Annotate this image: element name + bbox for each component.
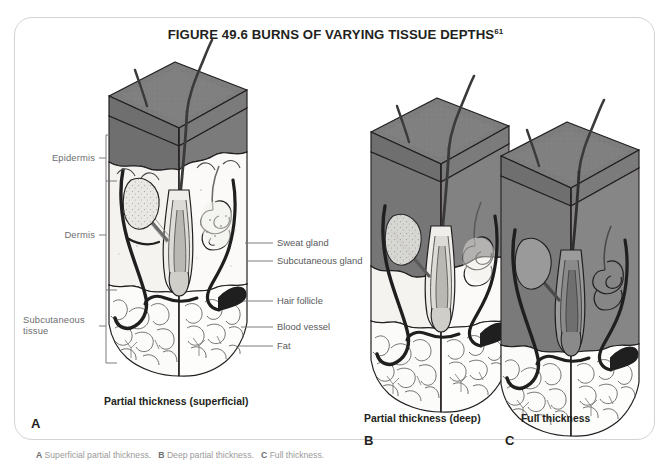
footnote-text-b: Deep partial thickness. bbox=[167, 450, 254, 460]
figure-footnote: A Superficial partial thickness. B Deep … bbox=[36, 450, 636, 461]
panel-letter-b: B bbox=[364, 433, 373, 448]
panel-caption-a: Partial thickness (superficial) bbox=[104, 396, 248, 407]
panel-caption-b: Partial thickness (deep) bbox=[364, 413, 481, 424]
figure-screenshot: FIGURE 49.6 BURNS OF VARYING TISSUE DEPT… bbox=[0, 0, 669, 462]
layer-label-subcutaneous-line1: Subcutaneous bbox=[23, 314, 85, 325]
figure-card: FIGURE 49.6 BURNS OF VARYING TISSUE DEPT… bbox=[14, 17, 655, 440]
skin-blocks-svg bbox=[15, 18, 656, 441]
structure-label-fat: Fat bbox=[277, 340, 291, 351]
footnote-text-c: Full thickness. bbox=[270, 450, 324, 460]
structure-label-subcutaneous-gland: Subcutaneous gland bbox=[277, 255, 363, 266]
structure-label-hair-follicle: Hair follicle bbox=[277, 295, 323, 306]
layer-label-subcutaneous-tissue: Subcutaneous tissue bbox=[23, 314, 97, 336]
panel-letter-c: C bbox=[505, 433, 514, 448]
panel-caption-c: Full thickness bbox=[521, 413, 590, 424]
panel-c-illustration bbox=[501, 100, 639, 436]
layer-label-subcutaneous-line2: tissue bbox=[23, 325, 48, 336]
layer-label-dermis: Dermis bbox=[37, 229, 95, 240]
footnote-letter-c: C bbox=[261, 450, 267, 460]
footnote-letter-a: A bbox=[36, 450, 42, 460]
layer-label-epidermis: Epidermis bbox=[37, 152, 95, 163]
structure-label-blood-vessel: Blood vessel bbox=[277, 321, 330, 332]
structure-label-sweat-gland: Sweat gland bbox=[277, 237, 329, 248]
diagram-stage bbox=[15, 18, 656, 441]
panel-b-illustration bbox=[371, 76, 509, 412]
panel-letter-a: A bbox=[31, 416, 40, 431]
footnote-text-a: Superficial partial thickness. bbox=[45, 450, 152, 460]
footnote-letter-b: B bbox=[158, 450, 164, 460]
panel-a-illustration bbox=[109, 40, 247, 376]
